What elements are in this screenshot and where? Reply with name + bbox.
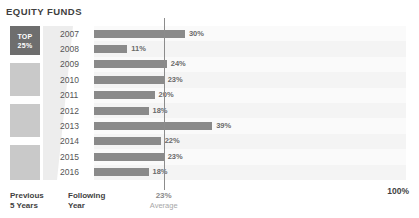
year-label: 2011 [60, 90, 90, 100]
quartile-block-top-quartile[interactable]: TOP25% [10, 26, 40, 55]
quartile-block-third-quartile[interactable] [10, 104, 40, 137]
footer-average: 23% Average [134, 191, 194, 210]
bar-2008[interactable] [94, 45, 127, 53]
equity-funds-chart: EQUITY FUNDS TOP25%200730%200811%200924%… [0, 0, 419, 218]
page-title: EQUITY FUNDS [6, 6, 82, 17]
top-quartile-label: TOP25% [10, 32, 40, 50]
bar-value-2012: 18% [153, 107, 168, 115]
top-quartile-label-line1: TOP [10, 32, 40, 41]
bar-value-2010: 23% [168, 76, 183, 84]
bar-2010[interactable] [94, 76, 164, 84]
bar-2011[interactable] [94, 91, 155, 99]
quartile-block-second-quartile[interactable] [10, 63, 40, 96]
year-label: 2007 [60, 29, 90, 39]
quartile-block-fourth-quartile[interactable] [10, 145, 40, 180]
year-label: 2008 [60, 44, 90, 54]
year-label: 2015 [60, 152, 90, 162]
year-label: 2010 [60, 75, 90, 85]
bar-value-2013: 39% [216, 122, 231, 130]
bar-2009[interactable] [94, 60, 167, 68]
bar-value-2014: 22% [165, 137, 180, 145]
year-label: 2009 [60, 59, 90, 69]
bar-2016[interactable] [94, 168, 149, 176]
bar-value-2008: 11% [131, 45, 146, 53]
bar-value-2009: 24% [171, 60, 186, 68]
bar-value-2007: 30% [189, 30, 204, 38]
bar-value-2016: 18% [153, 168, 168, 176]
year-label: 2013 [60, 121, 90, 131]
bar-2007[interactable] [94, 30, 185, 38]
bar-value-2015: 23% [168, 153, 183, 161]
year-label: 2014 [60, 136, 90, 146]
bar-2013[interactable] [94, 122, 212, 130]
bar-2015[interactable] [94, 153, 164, 161]
top-quartile-label-line2: 25% [10, 41, 40, 50]
footer-previous-5-years: Previous 5 Years [10, 191, 44, 210]
average-reference-line [164, 18, 165, 190]
footer-following-year: Following Year [68, 191, 105, 210]
bar-value-2011: 20% [159, 91, 174, 99]
year-label: 2016 [60, 167, 90, 177]
bar-2012[interactable] [94, 107, 149, 115]
year-label: 2012 [60, 106, 90, 116]
bar-2014[interactable] [94, 137, 161, 145]
footer-scale-max: 100% [387, 186, 409, 196]
